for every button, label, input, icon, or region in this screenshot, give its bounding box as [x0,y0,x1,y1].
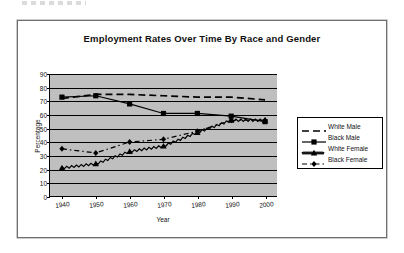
legend-label: Black Female [328,156,367,163]
data-point-marker [127,101,132,106]
y-tick-label: 80 [40,84,47,91]
y-tick-label: 50 [40,125,47,132]
series-white-female [59,117,268,170]
series-black-female [59,117,267,156]
y-tick-label: 90 [40,71,47,78]
plot-frame: Percentage 0102030405060708090 194019501… [49,74,277,197]
data-point-marker [127,139,132,145]
y-tick-label: 0 [43,194,47,201]
y-tick-label: 40 [40,139,47,146]
y-tick-label: 60 [40,112,47,119]
data-point-marker [93,93,98,98]
legend-item-white-male: White Male [301,121,380,132]
chart-frame: Employment Rates Over Time By Race and G… [17,20,387,238]
data-point-marker [59,165,65,171]
data-point-marker [126,148,132,154]
y-tick-mark [47,197,50,198]
chart-title: Employment Rates Over Time By Race and G… [18,33,386,44]
legend-swatch [301,144,327,154]
plot-area: 0102030405060708090 19401950196019701980… [49,74,277,197]
y-tick-label: 70 [40,98,47,105]
series-line [62,94,265,99]
x-tick-label: 1970 [157,200,172,208]
x-tick-label: 2000 [259,200,274,208]
x-tick-label: 1950 [89,200,104,208]
data-point-marker [59,146,64,152]
data-point-marker [161,136,166,142]
y-tick-label: 30 [40,153,47,160]
legend-swatch [301,155,327,165]
data-point-marker [161,111,166,116]
y-tick-label: 10 [40,180,47,187]
legend-label: White Female [328,145,368,152]
series-white-male [62,94,265,99]
legend-item-white-female: White Female [301,143,380,154]
data-point-marker [195,111,200,116]
data-point-marker [59,95,64,100]
x-tick-label: 1980 [191,200,206,208]
scan-artifact [22,1,86,5]
legend-label: Black Male [328,134,360,141]
legend-label: White Male [328,123,361,130]
series-line [62,96,265,122]
legend-item-black-female: Black Female [301,154,380,165]
x-axis-title: Year [49,216,277,223]
data-point-marker [311,161,316,167]
y-tick-label: 20 [40,166,47,173]
legend-swatch [301,122,327,132]
x-tick-label: 1990 [225,200,240,208]
y-axis-title: Percentage [34,119,41,152]
x-tick-label: 1960 [123,200,138,208]
data-point-marker [93,150,98,156]
legend-item-black-male: Black Male [301,132,380,143]
legend-swatch [301,133,327,143]
series-layer [50,74,277,196]
chart-legend: White MaleBlack MaleWhite FemaleBlack Fe… [297,117,383,169]
x-tick-label: 1940 [55,200,70,208]
